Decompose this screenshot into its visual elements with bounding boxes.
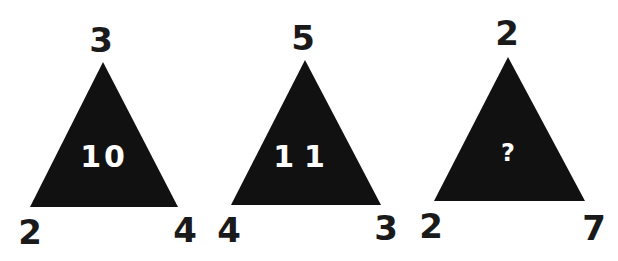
triangle-1-center-number: 10 bbox=[80, 142, 128, 172]
triangle-2-bottom-right-number: 3 bbox=[374, 211, 398, 245]
triangle-3-top-number: 2 bbox=[495, 16, 519, 50]
triangle-number-puzzle: 3 2 4 10 5 4 3 11 2 2 7 ? bbox=[0, 0, 618, 261]
triangle-3-unknown-question-mark: ? bbox=[501, 138, 515, 168]
triangle-2-center-number: 11 bbox=[273, 142, 335, 172]
triangle-2-top-number: 5 bbox=[291, 21, 315, 55]
triangle-1: 3 2 4 10 bbox=[0, 0, 210, 261]
triangle-1-top-number: 3 bbox=[89, 23, 113, 57]
triangle-2: 5 4 3 11 bbox=[205, 0, 415, 261]
triangle-1-bottom-left-number: 2 bbox=[18, 215, 42, 249]
triangle-3-bottom-left-number: 2 bbox=[419, 209, 443, 243]
triangle-2-bottom-left-number: 4 bbox=[217, 213, 241, 247]
triangle-3-bottom-right-number: 7 bbox=[582, 211, 606, 245]
triangle-3: 2 2 7 ? bbox=[408, 0, 618, 261]
triangle-1-bottom-right-number: 4 bbox=[173, 213, 197, 247]
